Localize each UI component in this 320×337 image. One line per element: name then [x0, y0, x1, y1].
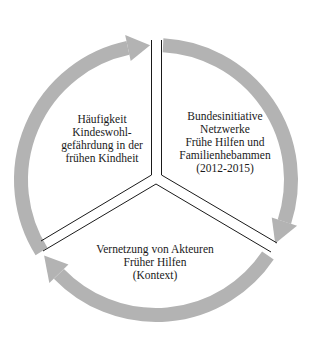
- segment-label-line: Häufigkeit: [52, 113, 152, 126]
- divider-right-lower-line: [156, 184, 271, 252]
- divider-right-upper-line: [162, 175, 278, 243]
- segment-label-left: Häufigkeit Kindeswohl- gefährdung in der…: [52, 113, 152, 165]
- segment-label-line: Netzwerke: [170, 123, 280, 136]
- segment-label-line: Früher Hilfen: [90, 256, 220, 269]
- segment-label-line: Vernetzung von Akteuren: [90, 243, 220, 256]
- segment-label-line: (2012-2015): [170, 162, 280, 175]
- divider-left-upper-line: [41, 175, 152, 241]
- segment-label-line: (Kontext): [90, 269, 220, 282]
- segment-label-line: Familienhebammen: [170, 149, 280, 162]
- segment-label-right: Bundesinitiative Netzwerke Frühe Hilfen …: [170, 110, 280, 175]
- segment-label-line: Bundesinitiative: [170, 110, 280, 123]
- arc-left-arrowhead-icon: [125, 35, 150, 61]
- segment-label-line: Frühe Hilfen und: [170, 136, 280, 149]
- segment-label-line: Kindeswohl-: [52, 126, 152, 139]
- segment-label-bottom: Vernetzung von Akteuren Früher Hilfen (K…: [90, 243, 220, 282]
- segment-label-line: frühen Kindheit: [52, 152, 152, 165]
- segment-label-line: gefährdung in der: [52, 139, 152, 152]
- divider-left-lower-line: [43, 184, 156, 251]
